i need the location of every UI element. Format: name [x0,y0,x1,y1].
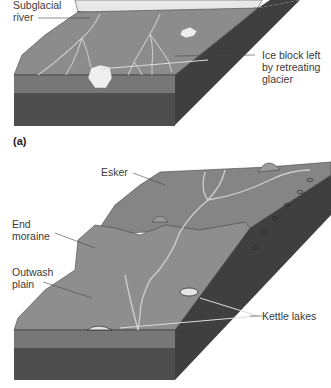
label-ice-block-line2: by retreating [262,61,320,73]
label-outwash-plain-line2: plain [12,278,53,290]
label-subglacial-river: Subglacial river [13,0,61,23]
front-face-lower-b [14,348,175,380]
label-ice-block: Ice block left by retreating glacier [262,49,320,85]
panel-a-letter: (a) [13,135,26,147]
label-ice-block-line3: glacier [262,73,320,85]
label-end-moraine-line1: End [12,218,50,230]
front-face-upper-b [14,330,175,348]
panel-b-block [14,162,331,380]
front-face-lower [14,93,175,126]
label-subglacial-river-line1: Subglacial [13,0,61,11]
label-end-moraine: End moraine [12,218,50,242]
label-ice-block-line1: Ice block left [262,49,320,61]
label-outwash-plain: Outwash plain [12,266,53,290]
label-esker: Esker [101,166,128,178]
label-subglacial-river-line2: river [13,11,61,23]
label-outwash-plain-line1: Outwash [12,266,53,278]
label-end-moraine-line2: moraine [12,230,50,242]
label-kettle-lakes: Kettle lakes [262,310,316,322]
kettle-lake-1 [180,288,198,296]
